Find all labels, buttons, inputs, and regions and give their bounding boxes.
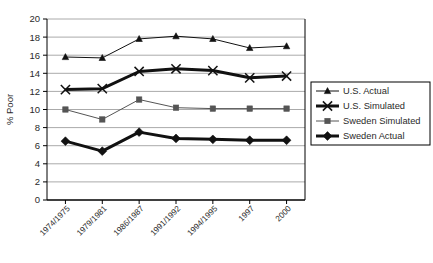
y-tick-label: 20: [29, 13, 40, 24]
line-chart: 02468101214161820 1974/19751979/19811986…: [0, 0, 433, 263]
x-tick-label: 1974/1975: [38, 204, 72, 238]
y-tick-label: 10: [29, 104, 40, 115]
y-tick-label: 16: [29, 50, 40, 61]
data-point-marker: [173, 33, 179, 39]
legend-item-label: Sweden Simulated: [343, 116, 421, 126]
data-point-marker: [208, 135, 217, 144]
series-line: [65, 69, 286, 90]
x-tick-label: 1979/1981: [75, 204, 109, 238]
y-tick-label: 18: [29, 32, 40, 43]
series-sweden-actual: [61, 128, 291, 156]
data-point-marker: [284, 106, 289, 111]
x-tick-label: 1991/1992: [149, 204, 183, 238]
chart-legend[interactable]: U.S. ActualU.S. SimulatedSweden Simulate…: [311, 82, 430, 145]
data-point-marker: [136, 97, 141, 102]
y-tick-label: 14: [29, 68, 40, 79]
data-point-marker: [210, 106, 215, 111]
data-point-marker: [247, 106, 252, 111]
y-tick-label: 2: [35, 176, 40, 187]
chart-container: 02468101214161820 1974/19751979/19811986…: [0, 0, 433, 263]
data-point-marker: [283, 43, 289, 49]
data-point-marker: [173, 105, 178, 110]
series-line: [65, 36, 286, 58]
y-tick-label: 4: [35, 158, 40, 169]
x-axis-ticks: 1974/19751979/19811986/19871991/19921994…: [38, 200, 293, 238]
y-tick-label: 12: [29, 86, 40, 97]
data-series: [61, 33, 291, 156]
data-point-marker: [325, 118, 330, 123]
legend-item-label: U.S. Simulated: [343, 101, 405, 111]
data-point-marker: [61, 137, 70, 146]
x-tick-label: 1997: [237, 204, 257, 224]
x-tick-label: 1986/1987: [112, 204, 146, 238]
series-u-s-simulated: [61, 64, 291, 94]
y-tick-label: 8: [35, 122, 40, 133]
x-tick-label: 2000: [274, 204, 294, 224]
data-point-marker: [282, 136, 291, 145]
y-tick-label: 6: [35, 140, 40, 151]
data-point-marker: [63, 107, 68, 112]
legend-item-label: U.S. Actual: [343, 86, 389, 96]
legend-item-label: Sweden Actual: [343, 131, 405, 141]
x-tick-label: 1994/1995: [186, 204, 220, 238]
data-point-marker: [100, 117, 105, 122]
y-axis-title-text: % Poor: [4, 94, 15, 125]
y-axis-ticks: 02468101214161820: [29, 13, 47, 205]
y-tick-label: 0: [35, 194, 40, 205]
data-point-marker: [245, 136, 254, 145]
y-axis-title: % Poor: [4, 94, 15, 125]
data-point-marker: [172, 134, 181, 143]
